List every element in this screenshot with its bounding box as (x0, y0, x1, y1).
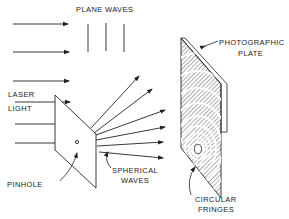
label-plate: PLATE (238, 49, 263, 58)
label-laser: LASER (8, 90, 35, 99)
spherical-rays (91, 76, 165, 158)
label-spherical: SPHERICAL (112, 166, 158, 175)
diagram-canvas: PLANE WAVES LASER LIGHT PINHOLE SPHERICA… (0, 0, 289, 219)
label-fringes: FRINGES (198, 205, 234, 214)
pinhole-screen (55, 95, 96, 188)
label-photographic: PHOTOGRAPHIC (219, 38, 285, 47)
diagram-drawing (0, 0, 289, 219)
plane-wavefronts (88, 23, 124, 52)
label-light: LIGHT (8, 104, 32, 113)
label-circular: CIRCULAR (195, 195, 237, 204)
label-plane-waves: PLANE WAVES (76, 5, 133, 14)
label-pinhole: PINHOLE (7, 180, 43, 189)
label-waves: WAVES (121, 176, 149, 185)
